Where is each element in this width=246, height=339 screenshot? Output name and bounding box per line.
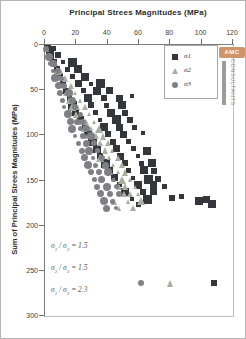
scatter-point-sigma3: [94, 184, 100, 190]
x-tick-label: 60: [134, 29, 142, 36]
scatter-point-sigma2: [128, 177, 132, 182]
scatter-point-sigma1: [70, 74, 75, 79]
scatter-point-sigma1: [122, 110, 128, 116]
x-tick-label: 80: [165, 29, 173, 36]
scatter-point-sigma2: [82, 104, 88, 110]
scatter-point-sigma2: [133, 185, 137, 189]
scatter-point-sigma1: [136, 154, 140, 158]
scatter-point-sigma2: [92, 120, 96, 124]
x-tick-mark: [44, 39, 45, 44]
legend-entry-sigma2: σ2: [165, 65, 217, 78]
ratio-annotation-3: σ1 / σ3 = 2.3: [51, 285, 87, 296]
scatter-point-sigma2: [127, 191, 133, 197]
scatter-point-sigma1: [141, 131, 145, 135]
sigma3-circle-marker-icon: [172, 82, 178, 88]
scatter-point-sigma3: [103, 205, 110, 212]
scatter-point-sigma1: [179, 194, 184, 199]
scatter-point-sigma2: [78, 98, 82, 103]
scatter-point-sigma3: [69, 97, 76, 104]
scatter-point-sigma1: [88, 102, 94, 108]
scatter-point-sigma3: [59, 76, 64, 81]
scatter-point-sigma1: [211, 280, 217, 286]
scatter-point-sigma2: [68, 83, 74, 89]
x-tick-mark: [138, 39, 139, 44]
scatter-point-sigma3: [114, 184, 119, 189]
x-tick-mark: [107, 39, 108, 44]
scatter-point-sigma3: [95, 148, 100, 153]
scatter-point-sigma1: [131, 146, 136, 151]
legend-entry-sigma1: σ1: [165, 51, 217, 64]
scatter-point-sigma2: [137, 197, 145, 205]
scatter-point-sigma3: [78, 112, 83, 117]
scatter-point-sigma2: [122, 183, 128, 190]
scatter-point-sigma1: [84, 94, 92, 102]
y-tick-label: 300: [12, 312, 38, 319]
scatter-point-sigma1: [101, 95, 107, 101]
scatter-point-sigma2: [167, 280, 173, 287]
scatter-point-sigma1: [140, 166, 148, 174]
x-tick-mark: [201, 39, 202, 44]
scatter-point-sigma3: [99, 155, 105, 161]
scatter-point-sigma2: [116, 170, 120, 174]
scatter-point-sigma1: [116, 124, 123, 131]
scatter-point-sigma1: [127, 117, 133, 123]
scatter-point-sigma1: [93, 110, 98, 115]
scatter-point-sigma3: [61, 83, 67, 89]
scatter-point-sigma1: [130, 197, 134, 201]
scatter-point-sigma1: [195, 197, 203, 205]
scatter-point-sigma1: [148, 159, 156, 167]
y-tick-mark: [39, 89, 44, 90]
scatter-point-sigma2: [105, 140, 111, 146]
scatter-point-sigma2: [107, 155, 111, 160]
x-tick-label: 0: [42, 29, 46, 36]
scatter-point-sigma2: [110, 148, 114, 153]
y-tick-label: 200: [12, 221, 38, 228]
y-tick-mark: [39, 180, 44, 181]
scatter-point-sigma3: [111, 178, 115, 182]
legend: σ1 σ2 σ3: [164, 45, 218, 99]
x-tick-mark: [232, 39, 233, 44]
scatter-point-sigma1: [89, 82, 93, 86]
logo-consultants-text: CONSULTANTS: [230, 59, 236, 123]
scatter-point-sigma3: [100, 197, 108, 205]
y-tick-mark: [39, 225, 44, 226]
scatter-point-sigma1: [81, 88, 86, 93]
x-tick-label: 100: [195, 29, 207, 36]
amc-logo-badge: AMC: [219, 47, 245, 58]
scatter-point-sigma3: [43, 46, 49, 52]
y-tick-mark: [39, 270, 44, 271]
scatter-point-sigma2: [119, 162, 125, 168]
scatter-point-sigma1: [93, 87, 101, 95]
chart-title: Principal Strees Magnitudes (MPa): [44, 8, 232, 17]
scatter-point-sigma2: [130, 205, 136, 211]
scatter-point-sigma3: [83, 140, 90, 147]
scatter-point-sigma1: [98, 118, 102, 122]
scatter-point-sigma1: [150, 188, 157, 195]
scatter-point-sigma1: [105, 131, 111, 137]
scatter-point-sigma1: [131, 176, 135, 180]
scatter-point-sigma2: [73, 91, 77, 95]
legend-label-sigma2: σ2: [184, 66, 191, 74]
scatter-point-sigma2: [97, 140, 103, 146]
scatter-point-sigma3: [80, 119, 86, 125]
x-tick-mark: [75, 39, 76, 44]
scatter-point-sigma1: [143, 147, 151, 155]
scatter-point-sigma3: [79, 148, 85, 154]
scatter-point-sigma1: [118, 101, 126, 109]
y-tick-label: 250: [12, 266, 38, 273]
scatter-point-sigma2: [126, 199, 130, 204]
scatter-point-sigma1: [75, 80, 82, 87]
scatter-point-sigma3: [76, 141, 81, 146]
scatter-point-sigma1: [55, 52, 61, 58]
scatter-point-sigma1: [151, 168, 157, 174]
legend-label-sigma3: σ3: [184, 80, 191, 88]
scatter-point-sigma3: [92, 177, 97, 182]
x-tick-label: 20: [71, 29, 79, 36]
scatter-point-sigma3: [91, 156, 95, 160]
logo-vertical-bar: [222, 61, 226, 105]
scatter-point-sigma3: [65, 89, 73, 97]
amc-consultants-logo: AMC CONSULTANTS: [217, 46, 245, 124]
scatter-point-sigma3: [93, 163, 98, 168]
x-tick-label: 40: [103, 29, 111, 36]
scatter-point-sigma1: [162, 184, 167, 189]
